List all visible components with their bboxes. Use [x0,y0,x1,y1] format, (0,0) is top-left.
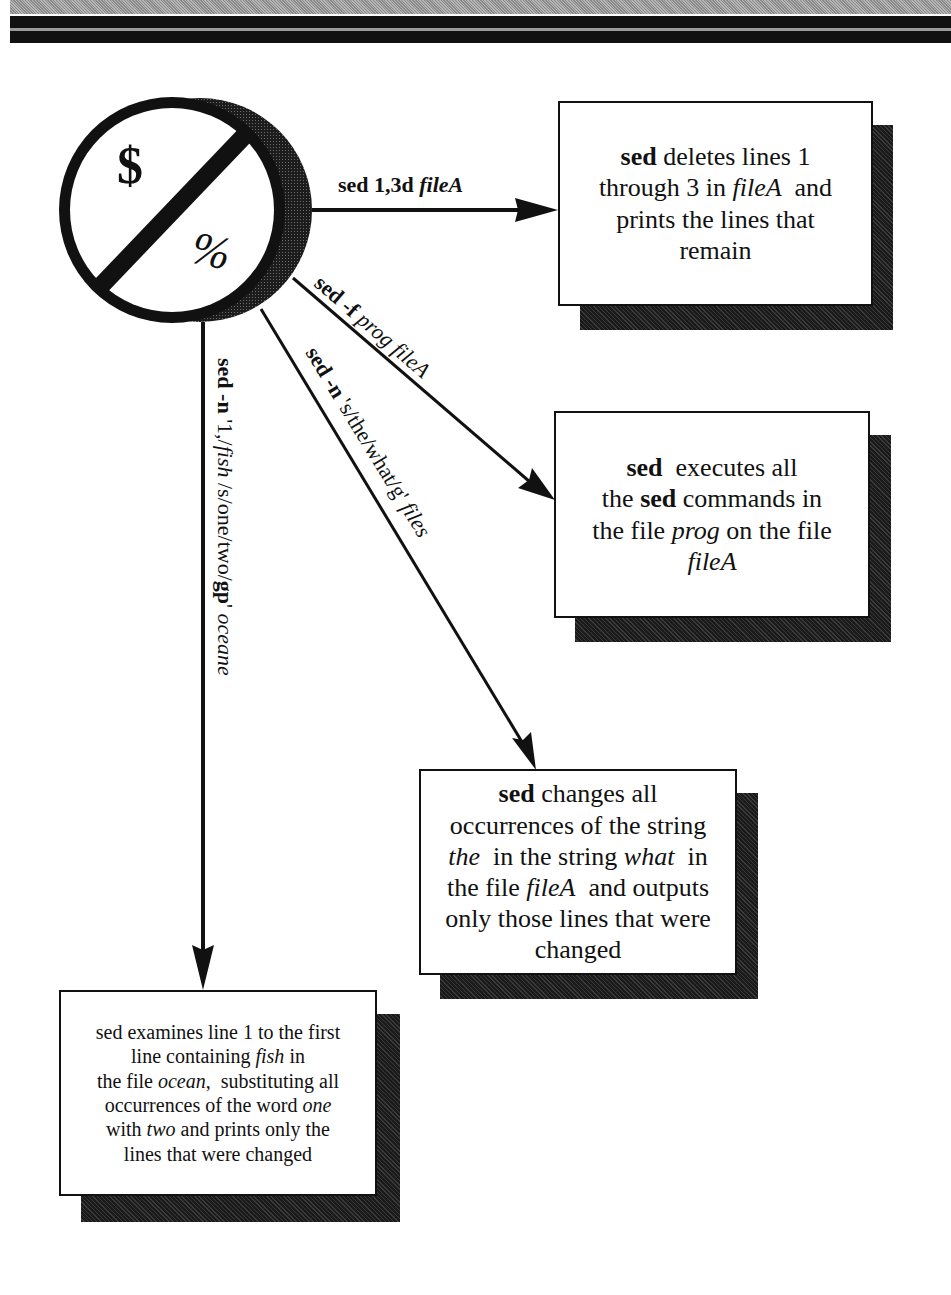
text-run: on the file [720,516,832,545]
text-run: sed examines line 1 to the first [96,1021,340,1043]
text-line: line containing fish in [96,1044,340,1068]
box-range: sed examines line 1 to the first line co… [59,990,377,1196]
text-run: executes all [663,453,798,482]
arrow-label-delete: sed 1,3d fileA [338,172,463,198]
text-line: fileA [592,546,832,577]
text-line: sed executes all [592,452,832,483]
text-run: two [147,1118,176,1140]
label-part: sed 1,3d [338,172,419,197]
text-run: lines that were changed [124,1143,312,1165]
text-run: the [448,842,480,871]
arrow-label-range: sed -n '1,/fish /s/one/two/gp' oceane [212,358,238,676]
text-run: through 3 in [599,173,733,202]
text-run: the [602,484,640,513]
text-run: one [302,1094,331,1116]
text-line: occurrences of the string [445,810,711,841]
text-run: in [284,1045,305,1067]
text-run: line containing [131,1045,255,1067]
label-part: oceane [213,614,238,676]
text-run: in [674,842,707,871]
text-run: remain [679,236,751,265]
dollar-symbol: $ [117,140,143,192]
text-run: the file [447,873,526,902]
box-script-text: sed executes all the sed commands in the… [592,452,832,577]
text-run: the file [592,516,671,545]
text-run: deletes lines 1 [657,142,811,171]
text-run: changed [535,935,622,964]
text-line: the file ocean, substituting all [96,1069,340,1093]
text-line: occurrences of the word one [96,1093,340,1117]
text-line: lines that were changed [96,1142,340,1166]
box-range-text: sed examines line 1 to the first line co… [96,1020,340,1166]
text-line: with two and prints only the [96,1117,340,1141]
text-run: occurrences of the word [105,1094,303,1116]
text-run: the file [97,1070,158,1092]
text-run: , substituting all [206,1070,339,1092]
text-run: changes all [535,779,658,808]
text-run: with [106,1118,147,1140]
text-line: the sed commands in [592,483,832,514]
hub-icon [59,97,312,323]
box-substitute-text: sed changes all occurrences of the strin… [445,778,711,965]
text-run: what [624,842,675,871]
text-run: sed [626,453,662,482]
text-run: commands in [676,484,822,513]
box-script: sed executes all the sed commands in the… [554,411,870,618]
text-run: occurrences of the string [450,811,706,840]
text-run: and [782,173,833,202]
text-run: sed [640,484,676,513]
label-part: sed -n [213,358,238,419]
text-line: the file prog on the file [592,515,832,546]
text-line: the file fileA and outputs [445,872,711,903]
text-line: prints the lines that [599,204,832,235]
arrow-range [192,322,214,990]
label-part: /s/one/two/ [213,483,238,581]
label-part: fish [213,446,238,483]
text-run: sed [621,142,657,171]
arrow-substitute [261,309,536,770]
text-run: fileA [732,173,781,202]
label-part: gp [213,581,238,604]
label-part: ' [213,604,238,613]
text-run: ocean [158,1070,206,1092]
box-substitute: sed changes all occurrences of the strin… [419,769,737,975]
box-delete: sed deletes lines 1 through 3 in fileA a… [558,101,873,306]
text-run: in the string [480,842,624,871]
text-run: fish [255,1045,284,1067]
arrow-delete [312,198,558,222]
text-line: through 3 in fileA and [599,172,832,203]
text-line: only those lines that were [445,903,711,934]
text-line: remain [599,235,832,266]
text-run: fileA [526,873,575,902]
text-line: sed deletes lines 1 [599,141,832,172]
text-run: prints the lines that [616,205,815,234]
label-part: fileA [419,172,463,197]
label-part: '1,/ [213,419,238,446]
text-run: only those lines that were [445,904,711,933]
text-run: prog [672,516,720,545]
text-run: and prints only the [176,1118,330,1140]
text-line: sed examines line 1 to the first [96,1020,340,1044]
text-run: and outputs [575,873,709,902]
box-delete-text: sed deletes lines 1 through 3 in fileA a… [599,141,832,266]
text-run: fileA [687,547,736,576]
text-run: sed [499,779,535,808]
text-line: sed changes all [445,778,711,809]
text-line: the in the string what in [445,841,711,872]
text-line: changed [445,934,711,965]
